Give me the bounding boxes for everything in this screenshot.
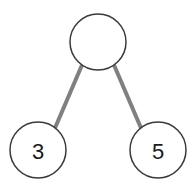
- node-right-leaf: 5: [130, 122, 186, 178]
- tree-diagram: 3 5: [0, 0, 196, 185]
- edge-root-to-left-leaf: [55, 65, 82, 128]
- left-leaf-node-label: 3: [32, 139, 44, 164]
- right-leaf-node-label: 5: [152, 139, 164, 164]
- edge-group: [55, 65, 141, 128]
- node-left-leaf: 3: [10, 122, 66, 178]
- node-root: [70, 14, 126, 70]
- edge-root-to-right-leaf: [114, 65, 141, 128]
- tree-diagram-canvas: 3 5: [0, 0, 196, 185]
- root-node-circle: [70, 14, 126, 70]
